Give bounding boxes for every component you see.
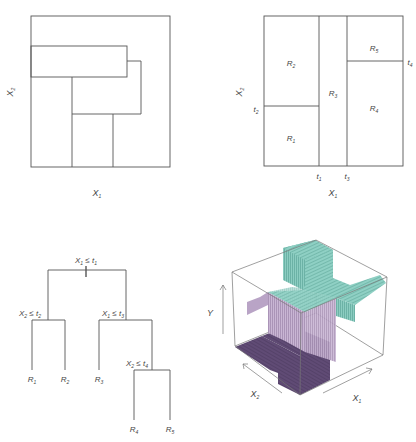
threshold-label-t1: t1 — [316, 172, 321, 182]
x-axis-label: X1 — [328, 188, 338, 199]
panel-recursive-partition: R2 R1 R3 R5 R4 t1 t3 t2 t4 X1 X2 — [234, 16, 413, 199]
partition-rect-b — [72, 61, 141, 114]
panel-decision-tree: X1 ≤ t1 X2 ≤ t2 X1 ≤ t3 X2 ≤ t4 R1 R2 R3… — [18, 256, 174, 435]
figure: X1 X2 R2 R1 R3 R5 R4 t1 t3 t2 t4 X1 X2 X… — [0, 0, 416, 442]
split-label-root: X1 ≤ t1 — [74, 256, 97, 266]
leaf-label-r3: R3 — [95, 375, 104, 385]
split-label-left: X2 ≤ t2 — [18, 309, 41, 319]
surface-wall-purple-left — [247, 292, 268, 315]
y-axis-label-3d: Y — [207, 308, 214, 318]
panel-non-recursive-partition: X1 X2 — [5, 16, 170, 199]
box-right-vertical-edge — [383, 277, 387, 355]
y-axis-arrow — [220, 285, 226, 334]
region-label-r1: R1 — [287, 134, 296, 144]
x-axis-label: X1 — [92, 188, 102, 199]
threshold-label-t3: t3 — [344, 172, 349, 182]
region-label-r3: R3 — [329, 89, 338, 99]
tree-branch-left — [32, 320, 65, 370]
split-label-right-right: X2 ≤ t4 — [125, 359, 148, 369]
y-axis-label: X2 — [234, 87, 245, 97]
leaf-label-r2: R2 — [61, 375, 70, 385]
leaf-label-r1: R1 — [28, 375, 37, 385]
leaf-label-r5: R5 — [166, 425, 175, 435]
x2-axis-label-3d: X2 — [250, 389, 260, 400]
threshold-label-t4: t4 — [407, 58, 412, 68]
box-left-vertical-edge — [232, 272, 235, 346]
panel-3d-surface: Y X2 X1 — [207, 240, 387, 404]
tree-branch-right-right — [134, 370, 170, 420]
partition-rect-a — [31, 46, 127, 77]
split-label-right: X1 ≤ t3 — [101, 309, 124, 319]
threshold-label-t2: t2 — [253, 105, 258, 115]
x1-axis-label-3d: X1 — [352, 393, 362, 404]
y-axis-label: X2 — [5, 87, 16, 97]
region-label-r5: R5 — [370, 44, 379, 54]
region-label-r2: R2 — [287, 59, 296, 69]
leaf-label-r4: R4 — [130, 425, 139, 435]
feature-space-box — [31, 16, 170, 167]
region-label-r4: R4 — [370, 104, 379, 114]
